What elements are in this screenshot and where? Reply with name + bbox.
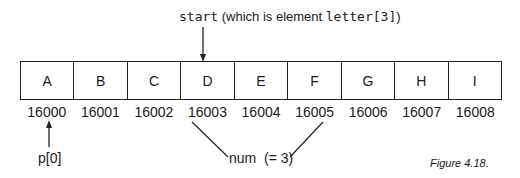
figure-caption: Figure 4.18. — [430, 157, 489, 169]
memory-address: 16003 — [181, 104, 235, 120]
num-right-line — [290, 122, 323, 157]
array-cell: F — [288, 62, 341, 99]
array-cell: B — [74, 62, 127, 99]
memory-address: 16006 — [341, 104, 395, 120]
array-cell: C — [128, 62, 181, 99]
memory-address: 16001 — [74, 104, 128, 120]
array-cell: H — [395, 62, 448, 99]
memory-address: 16000 — [20, 104, 74, 120]
array-cell: E — [235, 62, 288, 99]
num-label: num (= 3) — [229, 150, 293, 166]
array-cells: A B C D E F G H I — [20, 61, 502, 100]
memory-address: 16005 — [288, 104, 342, 120]
memory-address: 16002 — [127, 104, 181, 120]
memory-address: 16007 — [395, 104, 449, 120]
array-cell: G — [342, 62, 395, 99]
array-cell: D — [181, 62, 234, 99]
memory-address: 16008 — [449, 104, 503, 120]
memory-address: 16004 — [234, 104, 288, 120]
array-cell: I — [449, 62, 501, 99]
array-cell: A — [21, 62, 74, 99]
address-row: 16000 16001 16002 16003 16004 16005 1600… — [20, 104, 502, 120]
num-left-line — [192, 122, 228, 157]
pointer-label: p[0] — [38, 150, 61, 166]
array-memory-diagram: start (which is element letter[3]) A B C… — [0, 0, 520, 178]
